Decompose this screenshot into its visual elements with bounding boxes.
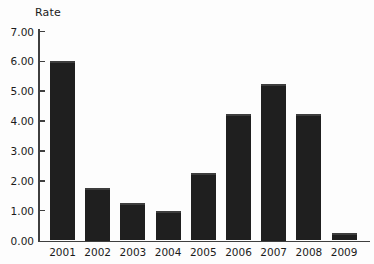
bar-2001 <box>50 61 75 240</box>
y-tick-label: 4.00 <box>0 115 34 127</box>
bar-2006 <box>226 114 251 241</box>
bar-2002 <box>85 188 110 240</box>
x-axis-line <box>38 241 370 243</box>
y-tick-label: 0.00 <box>0 235 34 247</box>
y-tick-mark <box>40 61 45 63</box>
y-axis-title: Rate <box>35 6 61 19</box>
x-tick-label: 2008 <box>291 246 327 258</box>
bar-2008 <box>296 114 321 241</box>
x-tick-label: 2009 <box>326 246 362 258</box>
y-tick-label: 6.00 <box>0 55 34 67</box>
y-tick-label: 7.00 <box>0 26 34 38</box>
x-tick-label: 2002 <box>80 246 116 258</box>
y-tick-label: 2.00 <box>0 175 34 187</box>
bar-2003 <box>120 203 145 240</box>
x-tick-label: 2007 <box>256 246 292 258</box>
rate-bar-chart: Rate 0.001.002.003.004.005.006.007.00 20… <box>0 0 374 264</box>
y-tick-mark <box>40 120 45 122</box>
y-tick-label: 1.00 <box>0 205 34 217</box>
bar-2007 <box>261 84 286 241</box>
x-tick-label: 2005 <box>185 246 221 258</box>
y-tick-mark <box>40 210 45 212</box>
y-tick-mark <box>40 31 45 33</box>
y-tick-mark <box>40 150 45 152</box>
bar-2005 <box>191 173 216 240</box>
y-tick-label: 5.00 <box>0 85 34 97</box>
x-tick-label: 2006 <box>221 246 257 258</box>
x-tick-label: 2001 <box>45 246 81 258</box>
y-tick-label: 3.00 <box>0 145 34 157</box>
y-tick-mark <box>40 180 45 182</box>
bar-2004 <box>156 211 181 241</box>
x-tick-label: 2003 <box>115 246 151 258</box>
y-tick-mark <box>40 90 45 92</box>
x-tick-label: 2004 <box>150 246 186 258</box>
bar-2009 <box>332 233 357 240</box>
